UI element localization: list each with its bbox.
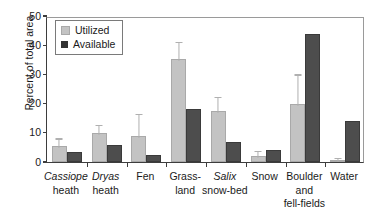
legend-item[interactable]: Utilized bbox=[61, 24, 115, 37]
x-label-line2: heath bbox=[78, 184, 134, 198]
bar-utilized[interactable] bbox=[251, 156, 266, 162]
bar-utilized[interactable] bbox=[211, 111, 226, 162]
bar-rect bbox=[345, 121, 360, 162]
legend-swatch-icon bbox=[61, 26, 70, 35]
y-tick-mark bbox=[43, 45, 47, 46]
x-axis-tick bbox=[325, 162, 326, 167]
error-bar-cap bbox=[135, 114, 142, 115]
error-bar-cap bbox=[334, 158, 341, 159]
bar-rect bbox=[107, 145, 122, 162]
bar-group bbox=[206, 18, 246, 162]
bar-rect bbox=[92, 133, 107, 162]
error-bar bbox=[337, 159, 338, 162]
bar-utilized[interactable] bbox=[52, 146, 67, 162]
y-tick-mark bbox=[43, 74, 47, 75]
x-axis-label: Water bbox=[316, 170, 372, 184]
bar-rect bbox=[226, 142, 241, 162]
bar-rect bbox=[290, 104, 305, 162]
bar-pair bbox=[286, 18, 326, 162]
error-bar bbox=[138, 115, 139, 138]
bar-group bbox=[325, 18, 365, 162]
error-bar bbox=[258, 152, 259, 158]
y-tick-label: 20 bbox=[29, 96, 41, 111]
legend-label: Available bbox=[73, 38, 115, 51]
bar-available[interactable] bbox=[186, 109, 201, 162]
bar-pair bbox=[166, 18, 206, 162]
legend-label: Utilized bbox=[75, 24, 109, 37]
legend-swatch-icon bbox=[61, 41, 68, 48]
bar-utilized[interactable] bbox=[92, 133, 107, 162]
bar-utilized[interactable] bbox=[131, 136, 146, 162]
x-label-line2: and bbox=[277, 184, 333, 198]
bar-available[interactable] bbox=[345, 121, 360, 162]
error-bar bbox=[99, 126, 100, 135]
bar-pair bbox=[325, 18, 365, 162]
bar-rect bbox=[52, 146, 67, 162]
y-tick-mark bbox=[43, 103, 47, 104]
chart-legend: UtilizedAvailable bbox=[55, 20, 123, 55]
bar-available[interactable] bbox=[146, 155, 161, 162]
bar-rect bbox=[67, 152, 82, 162]
error-bar-cap bbox=[175, 42, 182, 43]
bar-available[interactable] bbox=[107, 145, 122, 162]
bar-rect bbox=[211, 111, 226, 162]
x-axis-tick bbox=[166, 162, 167, 167]
error-bar bbox=[178, 43, 179, 61]
bar-rect bbox=[171, 59, 186, 162]
bar-rect bbox=[146, 155, 161, 162]
y-tick-label: 10 bbox=[29, 125, 41, 140]
bar-available[interactable] bbox=[226, 142, 241, 162]
legend-item[interactable]: Available bbox=[61, 38, 115, 51]
bar-available[interactable] bbox=[67, 152, 82, 162]
bar-group bbox=[286, 18, 326, 162]
bar-utilized[interactable] bbox=[171, 59, 186, 162]
bar-utilized[interactable] bbox=[330, 160, 345, 162]
error-bar bbox=[297, 76, 298, 106]
error-bar-cap bbox=[215, 97, 222, 98]
bar-available[interactable] bbox=[266, 150, 281, 162]
x-axis-tick bbox=[127, 162, 128, 167]
error-bar-cap bbox=[56, 138, 63, 139]
y-tick-label: 30 bbox=[29, 67, 41, 82]
error-bar-cap bbox=[255, 151, 262, 152]
y-tick-mark bbox=[43, 132, 47, 133]
error-bar bbox=[59, 140, 60, 148]
bar-rect bbox=[266, 150, 281, 162]
x-axis-tick bbox=[206, 162, 207, 167]
x-axis-tick bbox=[246, 162, 247, 167]
error-bar-cap bbox=[96, 125, 103, 126]
x-axis-labels: CassiopeheathDryasheathFenGrass-landSali… bbox=[46, 170, 364, 213]
y-tick-mark bbox=[43, 161, 47, 162]
chart-figure: Percent of total area 01020304050 Cassio… bbox=[0, 0, 382, 213]
y-tick-label: 50 bbox=[29, 9, 41, 24]
x-axis-tick bbox=[87, 162, 88, 167]
bar-utilized[interactable] bbox=[290, 104, 305, 162]
y-tick-mark bbox=[43, 15, 47, 16]
bar-rect bbox=[305, 34, 320, 162]
error-bar bbox=[218, 98, 219, 113]
bar-pair bbox=[206, 18, 246, 162]
x-label-line3: fell-fields bbox=[277, 197, 333, 211]
bar-rect bbox=[186, 109, 201, 162]
error-bar-cap bbox=[294, 74, 301, 75]
bar-group bbox=[166, 18, 206, 162]
bar-group bbox=[127, 18, 167, 162]
x-label-line2: snow-bed bbox=[197, 184, 253, 198]
x-axis-tick bbox=[286, 162, 287, 167]
y-tick-label: 40 bbox=[29, 38, 41, 53]
bar-pair bbox=[127, 18, 167, 162]
x-label-line1: Water bbox=[316, 170, 372, 184]
bar-rect bbox=[131, 136, 146, 162]
bar-pair bbox=[246, 18, 286, 162]
y-tick-label: 0 bbox=[35, 155, 41, 170]
bar-available[interactable] bbox=[305, 34, 320, 162]
bar-group bbox=[246, 18, 286, 162]
